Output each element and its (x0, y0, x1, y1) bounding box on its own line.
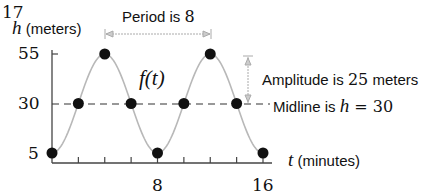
x-tick-label-16: 16 (252, 177, 274, 194)
function-label: f(t) (139, 68, 165, 89)
period-annotation: Period is 8 (122, 9, 195, 25)
data-point (205, 49, 216, 60)
data-point (73, 98, 84, 109)
x-tick-label-8: 8 (152, 177, 163, 194)
data-point (47, 148, 58, 159)
data-point (231, 98, 242, 109)
y-tick-label-55: 55 (18, 45, 40, 62)
data-points (47, 49, 269, 159)
data-point (178, 98, 189, 109)
amplitude-arrow (243, 56, 253, 103)
midline-annotation: Midline is h = 30 (273, 96, 393, 115)
data-point (258, 148, 269, 159)
data-point (126, 98, 137, 109)
y-tick-label-5: 5 (28, 145, 39, 162)
data-point (152, 148, 163, 159)
y-axis-var: h (12, 17, 22, 38)
y-tick-label-30: 30 (18, 95, 40, 112)
period-arrow (105, 29, 211, 39)
amplitude-annotation: Amplitude is 25 meters (262, 72, 418, 88)
y-axis-unit: (meters) (26, 20, 82, 37)
data-point (99, 49, 110, 60)
x-axis-label: t (minutes) (288, 150, 360, 169)
x-ticks (78, 157, 263, 163)
y-axis-label: h (meters) (12, 18, 82, 37)
